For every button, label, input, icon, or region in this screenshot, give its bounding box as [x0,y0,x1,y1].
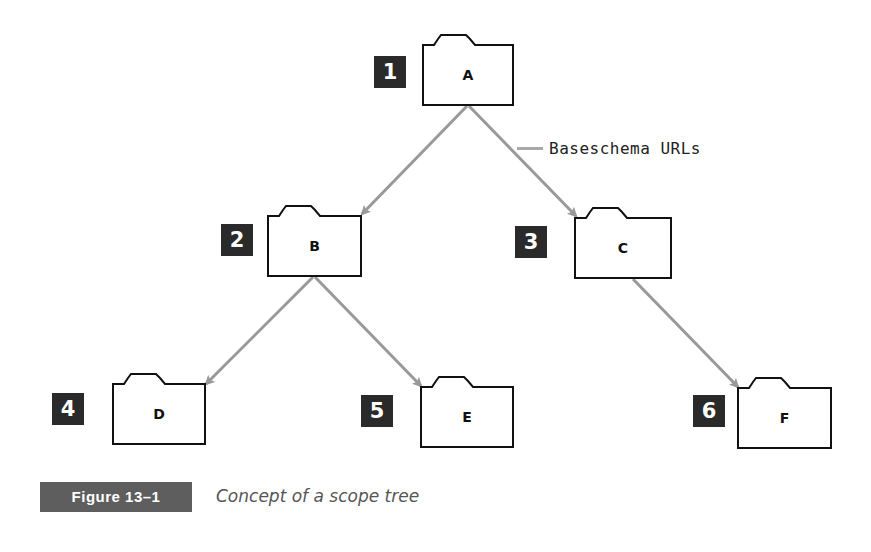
number-badge-1: 1 [374,56,406,88]
folder-label-e: E [420,409,514,425]
legend-label: Baseschema URLs [549,139,701,158]
legend-line-swatch [517,147,543,150]
folder-label-f: F [737,410,832,426]
folder-node-c: C [574,207,672,279]
arrow-a-to-c [469,106,576,216]
folder-label-c: C [574,240,672,256]
legend-baseschema-urls: Baseschema URLs [517,139,701,158]
arrow-a-to-b [362,106,467,214]
folder-label-b: B [267,238,362,254]
number-badge-2: 2 [221,224,253,256]
figure-number-tag: Figure 13–1 [40,482,192,512]
folder-node-d: D [112,373,206,445]
arrow-b-to-e [315,277,421,386]
number-badge-3: 3 [515,226,547,258]
scope-tree-diagram: 1A2B3C4D5E6F Baseschema URLs Figure 13–1… [0,0,871,552]
folder-node-f: F [737,377,832,449]
folder-node-b: B [267,205,362,277]
number-badge-4: 4 [52,393,84,425]
folder-label-a: A [422,67,514,83]
folder-label-d: D [112,406,206,422]
folder-node-e: E [420,376,514,448]
number-badge-5: 5 [361,395,393,427]
number-badge-6: 6 [693,395,725,427]
arrow-c-to-f [633,279,738,387]
arrow-b-to-d [206,277,313,384]
folder-node-a: A [422,34,514,106]
figure-caption: Concept of a scope tree [216,486,419,506]
